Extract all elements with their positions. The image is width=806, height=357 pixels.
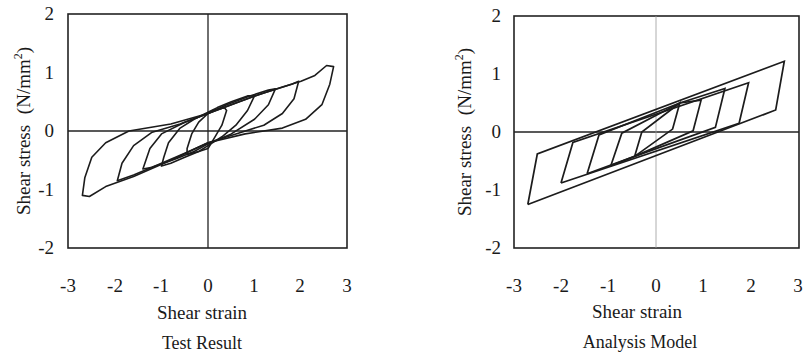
x-tick: 2 <box>295 275 305 296</box>
chart-caption: Analysis Model <box>583 332 698 352</box>
y-tick: 1 <box>492 63 502 84</box>
y-tick: 1 <box>45 62 55 83</box>
x-tick: 3 <box>793 275 803 296</box>
plot-area <box>68 14 347 248</box>
y-axis-label: Shear stress (N/mm2) <box>452 48 476 216</box>
y-tick: 0 <box>45 120 55 141</box>
x-tick: 1 <box>249 275 259 296</box>
x-axis-label: Shear strain <box>592 301 683 322</box>
chart-svg-analysis-model: Shear stress (N/mm2) 2 1 0 -1 -2 -3 -2 -… <box>446 0 806 357</box>
x-tick: -3 <box>506 275 522 296</box>
chart-svg-test-result: Shear stress (N/mm2) 2 1 0 -1 -2 -3 -2 -… <box>0 0 400 357</box>
y-tick: -1 <box>485 179 501 200</box>
x-axis-label: Shear strain <box>157 302 248 323</box>
x-tick: 0 <box>651 275 661 296</box>
y-tick: -1 <box>38 179 54 200</box>
x-tick: -2 <box>553 275 569 296</box>
x-tick-labels: -3 -2 -1 0 1 2 3 <box>60 275 352 296</box>
y-tick: -2 <box>485 237 501 258</box>
y-tick: -2 <box>38 237 54 258</box>
x-tick: -3 <box>60 275 76 296</box>
y-tick: 2 <box>492 5 502 26</box>
x-tick: 0 <box>203 275 213 296</box>
x-tick: 3 <box>342 275 352 296</box>
x-tick: 1 <box>698 275 708 296</box>
y-tick: 0 <box>492 121 502 142</box>
x-tick: -1 <box>600 275 616 296</box>
x-tick-labels: -3 -2 -1 0 1 2 3 <box>506 275 803 296</box>
x-tick: -1 <box>153 275 169 296</box>
y-tick-labels: 2 1 0 -1 -2 <box>38 3 54 258</box>
chart-test-result: Shear stress (N/mm2) 2 1 0 -1 -2 -3 -2 -… <box>0 0 400 357</box>
plot-area <box>514 16 799 248</box>
chart-analysis-model: Shear stress (N/mm2) 2 1 0 -1 -2 -3 -2 -… <box>446 0 806 357</box>
x-tick: 2 <box>746 275 756 296</box>
y-tick-labels: 2 1 0 -1 -2 <box>485 5 501 258</box>
y-axis-label: Shear stress (N/mm2) <box>11 47 35 215</box>
x-tick: -2 <box>107 275 123 296</box>
y-tick: 2 <box>45 3 55 24</box>
chart-caption: Test Result <box>162 333 242 353</box>
